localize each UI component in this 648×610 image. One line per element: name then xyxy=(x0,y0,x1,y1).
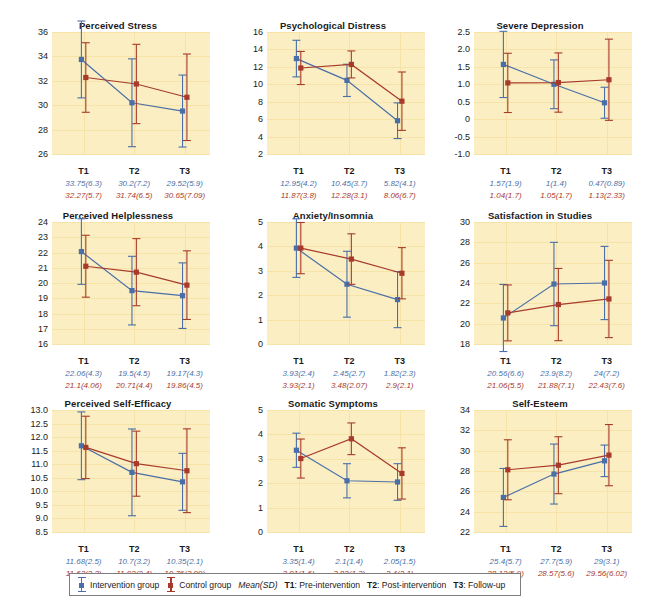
data-point-marker xyxy=(298,246,303,251)
value-label: 3.93(2.1) xyxy=(283,381,315,390)
data-point-marker xyxy=(344,478,349,483)
legend-item-intervention: Intervention group xyxy=(77,577,159,592)
value-label: 30.65(7.09) xyxy=(164,191,205,200)
y-tick-label: 12.0 xyxy=(30,432,48,442)
plot-wrapper: 012345 xyxy=(225,410,441,542)
x-tick-label: T2 xyxy=(344,544,355,554)
x-tick-label: T1 xyxy=(78,544,89,554)
gridline xyxy=(267,344,425,345)
y-tick-label: 10.0 xyxy=(30,486,48,496)
chart-panel: Perceived Self-Efficacy8.59.09.510.010.5… xyxy=(10,396,226,586)
y-tick-label: -0.5 xyxy=(454,132,470,142)
value-label: 2.9(2.1) xyxy=(386,381,414,390)
gridline xyxy=(52,344,210,345)
y-tick-label: 2 xyxy=(258,149,263,159)
data-point-marker xyxy=(606,453,611,458)
x-axis-labels: T1T2T3 xyxy=(267,544,425,556)
data-point-marker xyxy=(129,470,134,475)
legend-label-control: Control group xyxy=(179,580,231,590)
value-label: 23.9(8.2) xyxy=(540,369,572,378)
x-tick-label: T1 xyxy=(500,356,511,366)
x-tick-label: T3 xyxy=(394,544,405,554)
value-label: 2.1(1.4) xyxy=(335,557,363,566)
y-axis-ticks: -1.0-0.500.51.01.52.02.5 xyxy=(432,32,472,154)
intervention-values-row: 11.68(2.5)10.7(3.2)10.35(2.1) xyxy=(40,557,226,569)
gridline xyxy=(474,344,632,345)
plot-wrapper: 161718192021222324 xyxy=(10,222,226,354)
control-values-row: 3.93(2.1)3.48(2.07)2.9(2.1) xyxy=(255,381,441,393)
control-values-row: 21.06(5.5)21.88(7.1)22.43(7.6) xyxy=(462,381,648,393)
value-label: 10.45(3.7) xyxy=(331,179,367,188)
x-tick-label: T3 xyxy=(394,356,405,366)
plot-area xyxy=(267,410,425,532)
y-tick-label: 3 xyxy=(258,454,263,464)
x-tick-label: T3 xyxy=(601,356,612,366)
value-label: 0.47(0.89) xyxy=(588,179,624,188)
intervention-values-row: 33.75(6.3)30.2(7.2)29.52(5.9) xyxy=(40,179,226,191)
value-label: 29(3.1) xyxy=(594,557,619,566)
y-tick-label: 22 xyxy=(460,527,470,537)
plot-area xyxy=(267,222,425,344)
gridline xyxy=(52,532,210,533)
x-tick-label: T2 xyxy=(129,166,140,176)
legend-t1-value: : Pre-intervention xyxy=(295,580,360,590)
data-point-marker xyxy=(505,467,510,472)
y-tick-label: 26 xyxy=(460,486,470,496)
data-point-marker xyxy=(501,62,506,67)
y-tick-label: 18 xyxy=(460,339,470,349)
value-label: 1.13(2.33) xyxy=(588,191,624,200)
value-label: 1.05(1.7) xyxy=(540,191,572,200)
legend-meansd-note: Mean(SD) xyxy=(238,580,277,590)
chart-panel: Severe Depression-1.0-0.500.51.01.52.02.… xyxy=(432,18,648,208)
y-tick-label: 32 xyxy=(38,76,48,86)
y-tick-label: 28 xyxy=(460,237,470,247)
y-tick-label: 6 xyxy=(258,114,263,124)
x-tick-label: T3 xyxy=(394,166,405,176)
intervention-values-row: 25.4(5.7)27.7(5.9)29(3.1) xyxy=(462,557,648,569)
value-label: 22.06(4.3) xyxy=(65,369,101,378)
y-tick-label: 8.5 xyxy=(35,527,48,537)
y-tick-label: 0 xyxy=(258,527,263,537)
plot-area xyxy=(267,32,425,154)
value-label: 19.5(4.5) xyxy=(118,369,150,378)
series-layer xyxy=(267,410,425,532)
control-values-row: 1.04(1.7)1.05(1.7)1.13(2.33) xyxy=(462,191,648,203)
y-tick-label: 30 xyxy=(460,446,470,456)
legend-t3-definition: T3: Follow-up xyxy=(453,580,505,590)
data-point-marker xyxy=(349,436,354,441)
y-tick-label: 2.0 xyxy=(457,44,470,54)
control-values-row: 32.27(5.7)31.74(6.5)30.65(7.09) xyxy=(40,191,226,203)
y-tick-label: 11.0 xyxy=(31,459,48,469)
data-point-marker xyxy=(180,293,185,298)
y-tick-label: 18 xyxy=(38,309,48,319)
y-tick-label: 10 xyxy=(253,79,263,89)
x-tick-label: T3 xyxy=(601,166,612,176)
intervention-values-row: 12.95(4.2)10.45(3.7)5.82(4.1) xyxy=(255,179,441,191)
x-axis-labels: T1T2T3 xyxy=(267,166,425,178)
y-tick-label: 0.5 xyxy=(457,97,470,107)
y-tick-label: 22 xyxy=(460,298,470,308)
y-tick-label: 9.5 xyxy=(35,500,48,510)
value-label: 2.05(1.5) xyxy=(384,557,416,566)
value-label: 21.06(5.5) xyxy=(487,381,523,390)
y-tick-label: 30 xyxy=(38,100,48,110)
y-axis-ticks: 012345 xyxy=(225,222,265,344)
value-label: 12.95(4.2) xyxy=(280,179,316,188)
series-layer xyxy=(474,32,632,154)
value-label: 28.57(5.6) xyxy=(538,569,574,578)
data-point-marker xyxy=(602,458,607,463)
y-tick-label: 5 xyxy=(258,405,263,415)
data-point-marker xyxy=(551,471,556,476)
data-point-marker xyxy=(501,315,506,320)
y-tick-label: 9.0 xyxy=(35,513,48,523)
value-label: 12.28(3.1) xyxy=(331,191,367,200)
y-tick-label: 13.0 xyxy=(30,405,48,415)
data-point-marker xyxy=(184,283,189,288)
y-tick-label: 19 xyxy=(38,293,48,303)
y-tick-label: 4 xyxy=(258,429,263,439)
plot-area xyxy=(52,32,210,154)
value-label: 19.86(4.5) xyxy=(166,381,202,390)
value-label: 10.35(2.1) xyxy=(166,557,202,566)
x-tick-label: T2 xyxy=(344,356,355,366)
data-point-marker xyxy=(83,264,88,269)
